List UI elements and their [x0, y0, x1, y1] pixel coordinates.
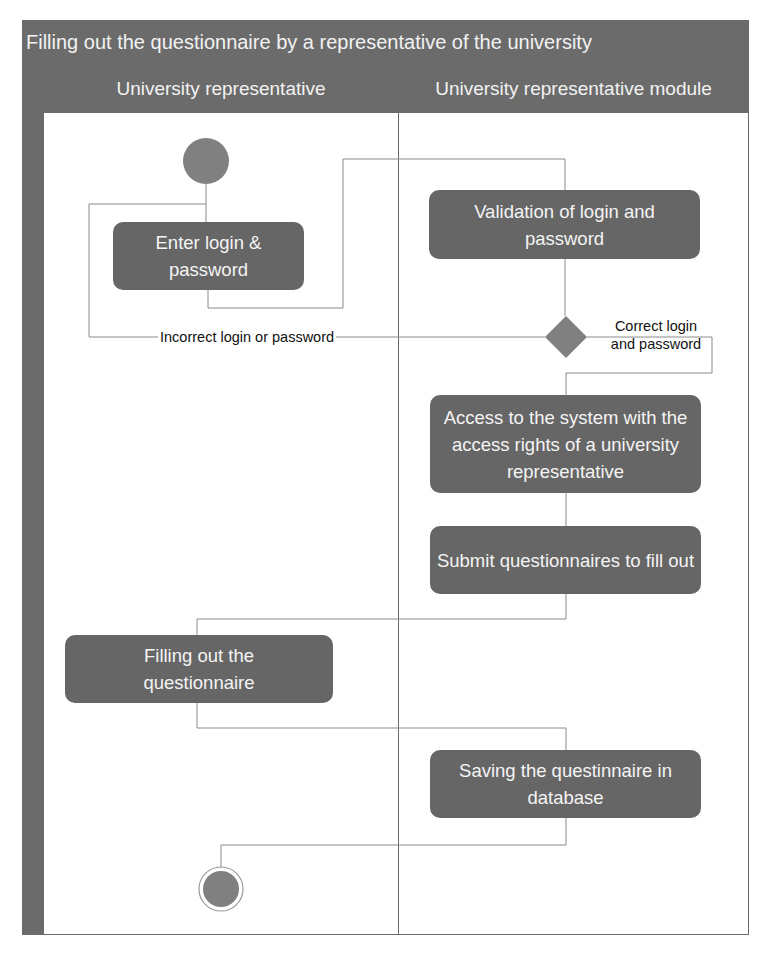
activity-enter-login: Enter login & password: [113, 222, 304, 290]
final-node-icon: [203, 871, 239, 907]
activity-label: Validation of login and password: [469, 198, 660, 252]
edge-saving-to-end: [221, 818, 566, 867]
activity-saving-questionnaire: Saving the questinnaire in database: [430, 750, 701, 818]
guard-incorrect-login: Incorrect login or password: [158, 328, 336, 346]
edge-submit-to-filling: [197, 594, 566, 635]
initial-node-icon: [183, 138, 229, 184]
activity-label: Filling out the questionnaire: [125, 642, 273, 696]
activity-label: Enter login & password: [119, 229, 298, 283]
guard-correct-line-1: Correct login: [600, 317, 712, 335]
activity-filling-questionnaire: Filling out the questionnaire: [65, 635, 333, 703]
activity-label: Submit questionnaires to fill out: [437, 547, 694, 574]
guard-correct-login: Correct login and password: [600, 317, 712, 353]
activity-label: Saving the questinnaire in database: [436, 757, 695, 811]
activity-validation: Validation of login and password: [429, 190, 700, 259]
guard-correct-line-2: and password: [600, 335, 712, 353]
decision-node-icon: [545, 316, 587, 358]
activity-access-system: Access to the system with the access rig…: [430, 395, 701, 493]
activity-label: Access to the system with the access rig…: [436, 404, 695, 485]
edge-filling-to-saving: [197, 703, 566, 750]
activity-submit-questionnaires: Submit questionnaires to fill out: [430, 526, 701, 594]
